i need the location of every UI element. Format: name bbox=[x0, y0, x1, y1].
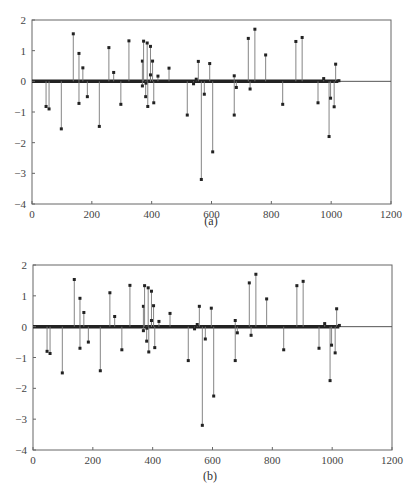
stem-marker bbox=[204, 338, 207, 341]
stem-marker bbox=[282, 348, 285, 351]
stem-marker bbox=[149, 45, 152, 48]
x-tick-label: 800 bbox=[263, 208, 280, 220]
x-tick-label: 200 bbox=[85, 454, 102, 466]
stem-marker bbox=[187, 359, 190, 362]
y-tick-label: 0 bbox=[21, 75, 27, 87]
stem-marker bbox=[86, 95, 89, 98]
stem-marker bbox=[157, 320, 160, 323]
stem-marker bbox=[77, 102, 80, 105]
stem-marker bbox=[322, 77, 325, 80]
stem-marker bbox=[108, 291, 111, 294]
stem-marker bbox=[82, 311, 85, 314]
stem-marker bbox=[146, 42, 149, 45]
stem-marker bbox=[254, 273, 257, 276]
y-tick-label: −4 bbox=[15, 444, 27, 456]
stem-marker bbox=[265, 297, 268, 300]
stem-marker bbox=[186, 114, 189, 117]
panel-caption-a: (a) bbox=[191, 214, 231, 229]
panel-caption-b: (b) bbox=[190, 469, 230, 484]
stem-marker bbox=[281, 103, 284, 106]
stem-marker bbox=[294, 40, 297, 43]
stem-marker bbox=[120, 348, 123, 351]
stem-marker bbox=[60, 127, 63, 130]
stem-marker bbox=[192, 82, 195, 85]
stem-marker bbox=[338, 324, 341, 327]
stem-marker bbox=[208, 62, 211, 65]
stem-marker bbox=[112, 71, 115, 74]
stem-marker bbox=[72, 32, 75, 35]
stem-marker bbox=[142, 40, 145, 43]
stem-marker bbox=[248, 281, 251, 284]
stem-marker bbox=[142, 329, 145, 332]
stem-marker bbox=[150, 319, 153, 322]
y-tick-label: −2 bbox=[14, 137, 26, 149]
stem-marker bbox=[168, 67, 171, 70]
y-tick-label: −1 bbox=[15, 352, 27, 364]
stem-marker bbox=[150, 290, 153, 293]
stem-marker bbox=[113, 315, 116, 318]
stem-marker bbox=[317, 101, 320, 104]
stem-marker bbox=[335, 307, 338, 310]
stem-marker bbox=[329, 97, 332, 100]
stem-marker bbox=[330, 344, 333, 347]
x-tick-label: 1200 bbox=[380, 208, 403, 220]
stem-marker bbox=[302, 280, 305, 283]
x-tick-label: 800 bbox=[264, 454, 281, 466]
stem-plot-b: 020040060080010001200210−1−2−3−4 bbox=[0, 245, 417, 500]
stem-marker bbox=[98, 125, 101, 128]
stem-marker bbox=[107, 46, 110, 49]
stem-marker bbox=[295, 284, 298, 287]
stem-marker bbox=[78, 297, 81, 300]
y-tick-label: −3 bbox=[15, 413, 27, 425]
stem-marker bbox=[141, 84, 144, 87]
stem-marker bbox=[250, 334, 253, 337]
x-tick-label: 1000 bbox=[321, 454, 344, 466]
stem-marker bbox=[156, 75, 159, 78]
stem-marker bbox=[87, 341, 90, 344]
x-tick-label: 400 bbox=[143, 208, 160, 220]
stem-marker bbox=[210, 307, 213, 310]
stem-marker bbox=[212, 395, 215, 398]
stem-marker bbox=[195, 78, 198, 81]
stem-marker bbox=[145, 327, 148, 330]
stem-marker bbox=[334, 351, 337, 354]
x-tick-label: 0 bbox=[29, 208, 35, 220]
stem-marker bbox=[233, 114, 236, 117]
stem-marker bbox=[144, 95, 147, 98]
y-tick-label: 1 bbox=[22, 290, 28, 302]
x-tick-label: 400 bbox=[144, 454, 161, 466]
x-tick-label: 1000 bbox=[320, 208, 343, 220]
x-tick-label: 200 bbox=[84, 208, 101, 220]
stem-marker bbox=[328, 135, 331, 138]
stem-marker bbox=[149, 73, 152, 76]
stem-marker bbox=[48, 107, 51, 110]
stem-marker bbox=[318, 347, 321, 350]
stem-marker bbox=[200, 178, 203, 181]
stem-marker bbox=[211, 150, 214, 153]
x-tick-label: 1200 bbox=[381, 454, 404, 466]
y-tick-label: 2 bbox=[22, 259, 28, 271]
y-tick-label: −3 bbox=[14, 167, 26, 179]
stem-marker bbox=[169, 312, 172, 315]
y-tick-label: 2 bbox=[21, 14, 27, 26]
stem-marker bbox=[193, 327, 196, 330]
stem-marker bbox=[235, 86, 238, 89]
stem-marker bbox=[152, 101, 155, 104]
stem-marker bbox=[236, 331, 239, 334]
stem-marker bbox=[144, 82, 147, 85]
chart-panel-b: 020040060080010001200210−1−2−3−4 (b) bbox=[0, 245, 417, 500]
stem-marker bbox=[46, 350, 49, 353]
x-tick-label: 600 bbox=[204, 454, 221, 466]
stem-marker bbox=[253, 28, 256, 31]
stem-marker bbox=[143, 284, 146, 287]
stem-marker bbox=[201, 424, 204, 427]
stem-marker bbox=[233, 74, 236, 77]
stem-marker bbox=[145, 340, 148, 343]
stem-marker bbox=[119, 103, 122, 106]
y-tick-label: −1 bbox=[14, 106, 26, 118]
stem-marker bbox=[334, 63, 337, 66]
stem-marker bbox=[147, 350, 150, 353]
plot-frame bbox=[32, 20, 391, 204]
stem-marker bbox=[247, 37, 250, 40]
stem-marker bbox=[264, 53, 267, 56]
